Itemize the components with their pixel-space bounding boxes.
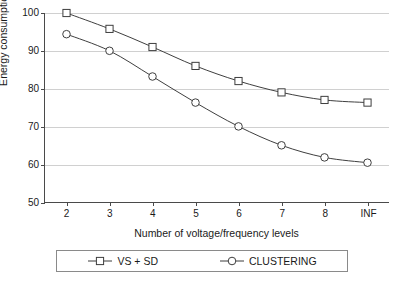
y-tick-label: 100: [22, 8, 39, 18]
data-point-marker: [321, 96, 328, 103]
x-tick-mark: [239, 202, 240, 206]
data-point-marker: [149, 43, 156, 50]
x-tick-label: 6: [236, 208, 242, 219]
caption-strip: [0, 279, 403, 287]
data-point-marker: [63, 30, 71, 38]
legend-entry: CLUSTERING: [219, 255, 317, 267]
legend-entry: VS + SD: [87, 255, 158, 267]
legend-square-marker-icon: [87, 255, 113, 267]
data-point-marker: [63, 9, 70, 16]
x-tick-label: 5: [193, 208, 199, 219]
x-tick-mark: [196, 202, 197, 206]
data-point-marker: [278, 142, 286, 150]
plot-area: 1009080706050 2345678INF: [44, 13, 389, 203]
x-tick-mark: [110, 202, 111, 206]
x-tick-label: 2: [64, 208, 70, 219]
energy-consumption-line-chart: Energy consumption Number of voltage/fre…: [0, 0, 403, 287]
legend-label: VS + SD: [117, 256, 158, 267]
data-point-marker: [235, 77, 242, 84]
data-point-marker: [321, 154, 329, 162]
chart-legend: VS + SDCLUSTERING: [56, 250, 348, 272]
legend-label: CLUSTERING: [249, 256, 317, 267]
data-point-marker: [235, 123, 243, 131]
x-tick-mark: [67, 202, 68, 206]
x-tick-mark: [282, 202, 283, 206]
data-point-marker: [364, 159, 372, 167]
x-axis-title: Number of voltage/frequency levels: [44, 227, 389, 239]
y-tick-label: 50: [28, 198, 39, 208]
x-tick-label: 7: [279, 208, 285, 219]
x-tick-label: 8: [323, 208, 329, 219]
x-tick-label: 4: [150, 208, 156, 219]
data-point-marker: [106, 47, 114, 55]
x-tick-label: 3: [107, 208, 113, 219]
series-plot: [45, 13, 389, 202]
y-tick-mark: [41, 203, 45, 204]
y-tick-label: 90: [28, 46, 39, 56]
x-tick-mark: [153, 202, 154, 206]
data-point-marker: [364, 99, 371, 106]
data-point-marker: [149, 73, 157, 81]
data-point-marker: [192, 99, 200, 107]
data-point-marker: [278, 89, 285, 96]
y-tick-label: 60: [28, 160, 39, 170]
legend-circle-marker-icon: [219, 255, 245, 267]
x-tick-mark: [368, 202, 369, 206]
y-tick-label: 80: [28, 84, 39, 94]
y-axis-title: Energy consumption: [0, 0, 9, 108]
data-point-marker: [192, 62, 199, 69]
data-point-marker: [106, 25, 113, 32]
y-tick-label: 70: [28, 122, 39, 132]
x-tick-label: INF: [360, 208, 376, 219]
x-tick-mark: [325, 202, 326, 206]
